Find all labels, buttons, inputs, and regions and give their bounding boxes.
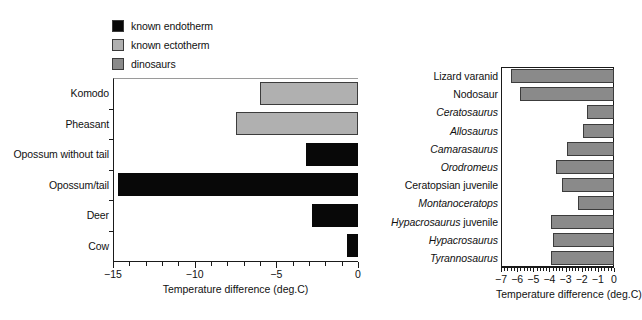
x-axis-tick [549, 268, 550, 272]
y-axis-minor-tick [109, 139, 113, 140]
chart-right-x-axis-title: Temperature difference (deg.C) [496, 288, 621, 300]
x-axis-minor-tick [572, 268, 573, 271]
x-axis-tick-label: −5 [270, 268, 282, 280]
x-axis-minor-tick [578, 268, 579, 271]
x-axis-line [113, 261, 358, 262]
x-axis-minor-tick [530, 268, 531, 271]
x-axis-minor-tick [507, 268, 508, 271]
x-axis-minor-tick [559, 268, 560, 271]
category-label: Allosaurus [450, 125, 498, 137]
chart-left-temperature-difference: KomodoPheasantOpossum without tailOpossu… [0, 0, 400, 320]
x-axis-minor-tick [527, 268, 528, 271]
x-axis-minor-tick [575, 268, 576, 271]
x-axis-minor-tick [537, 268, 538, 271]
x-axis-minor-tick [520, 268, 521, 271]
x-axis-tick [582, 268, 583, 272]
x-axis-tick-label: −4 [543, 273, 555, 285]
x-axis-minor-tick [553, 268, 554, 271]
x-axis-minor-tick [342, 262, 343, 266]
category-label: Nodosaur [453, 88, 498, 100]
bar [583, 124, 614, 138]
chart-right-category-labels: Lizard varanidNodosaurCeratosaurusAllosa… [400, 0, 498, 320]
x-axis-tick-label: −15 [104, 268, 122, 280]
y-axis-minor-tick [109, 109, 113, 110]
x-axis-minor-tick [129, 262, 130, 266]
x-axis-tick [598, 268, 599, 272]
x-axis-minor-tick [524, 268, 525, 271]
x-axis-minor-tick [585, 268, 586, 271]
category-label: Hypacrosaurus juvenile [391, 216, 498, 228]
x-axis-tick-label: −5 [527, 273, 539, 285]
x-axis-tick-label: −6 [511, 273, 523, 285]
x-axis-minor-tick [162, 262, 163, 266]
bar [511, 69, 614, 83]
x-axis-minor-tick [309, 262, 310, 266]
bar [551, 251, 614, 265]
bar [306, 143, 358, 166]
x-axis-tick [614, 268, 615, 272]
x-axis-tick-label: 0 [355, 268, 361, 280]
y-axis-minor-tick [109, 170, 113, 171]
x-axis-tick-label: −3 [560, 273, 572, 285]
x-axis-tick-label: −10 [186, 268, 204, 280]
x-axis-minor-tick [178, 262, 179, 266]
bar [567, 142, 614, 156]
chart-left-x-axis-title: Temperature difference (deg.C) [113, 283, 358, 295]
category-label: Ceratopsian juvenile [405, 179, 498, 191]
bar [260, 82, 358, 105]
x-axis-minor-tick [325, 262, 326, 266]
bar [551, 215, 614, 229]
bar [236, 112, 359, 135]
x-axis-tick [501, 268, 502, 272]
category-label: Komodo [70, 87, 109, 99]
figure-bar-charts: known endotherm known ectotherm dinosaur… [0, 0, 642, 320]
bar [556, 160, 614, 174]
chart-right-temperature-difference: Lizard varanidNodosaurCeratosaurusAllosa… [400, 0, 642, 320]
x-axis-tick-label: 0 [611, 273, 617, 285]
category-label: Lizard varanid [433, 70, 498, 82]
x-axis-minor-tick [511, 268, 512, 271]
x-axis-minor-tick [604, 268, 605, 271]
x-axis-minor-tick [514, 268, 515, 271]
y-axis-minor-tick [109, 200, 113, 201]
x-axis-tick-label: −7 [495, 273, 507, 285]
category-label: Cow [88, 240, 109, 252]
x-axis-minor-tick [611, 268, 612, 271]
category-label: Orodromeus [441, 161, 498, 173]
y-axis-minor-tick [109, 231, 113, 232]
x-axis-minor-tick [543, 268, 544, 271]
x-axis-minor-tick [504, 268, 505, 271]
x-axis-minor-tick [562, 268, 563, 271]
x-axis-tick-label: −1 [592, 273, 604, 285]
bar [118, 173, 358, 196]
x-axis-minor-tick [569, 268, 570, 271]
bar [347, 234, 358, 257]
category-label: Hypacrosaurus [429, 234, 498, 246]
x-axis-minor-tick [601, 268, 602, 271]
x-axis-minor-tick [244, 262, 245, 266]
x-axis-tick [566, 268, 567, 272]
bar [562, 178, 614, 192]
category-label: Pheasant [65, 118, 109, 130]
x-axis-minor-tick [146, 262, 147, 266]
category-label: Opossum/tail [49, 179, 109, 191]
category-label: Tyrannosaurus [430, 252, 498, 264]
x-axis-tick [517, 268, 518, 272]
category-label: Opossum without tail [14, 148, 109, 160]
bar [587, 105, 614, 119]
category-label: Ceratosaurus [436, 106, 498, 118]
x-axis-minor-tick [546, 268, 547, 271]
category-label: Deer [87, 209, 109, 221]
x-axis-minor-tick [556, 268, 557, 271]
x-axis-minor-tick [293, 262, 294, 266]
bar [312, 204, 358, 227]
bar [553, 233, 614, 247]
x-axis-minor-tick [227, 262, 228, 266]
x-axis-minor-tick [540, 268, 541, 271]
x-axis-minor-tick [608, 268, 609, 271]
x-axis-minor-tick [591, 268, 592, 271]
x-axis-tick-label: −2 [576, 273, 588, 285]
bar [578, 196, 614, 210]
category-label: Montanoceratops [418, 197, 498, 209]
x-axis-minor-tick [260, 262, 261, 266]
